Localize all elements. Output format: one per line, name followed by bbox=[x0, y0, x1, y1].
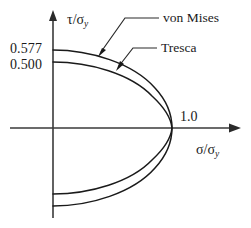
y-tick-label-0577: 0.577 bbox=[10, 42, 42, 56]
yield-criterion-figure: 0.577 0.500 1.0 τ/σy σ/σy von Mises Tres… bbox=[0, 0, 251, 228]
series-label-tresca: Tresca bbox=[161, 41, 197, 55]
tresca-leader-line bbox=[116, 48, 157, 71]
x-axis-label-text: σ/σ bbox=[196, 142, 215, 157]
x-vertex-label-10: 1.0 bbox=[180, 110, 198, 124]
x-axis-label: σ/σy bbox=[196, 143, 219, 157]
plot-canvas bbox=[0, 0, 251, 228]
x-axis bbox=[10, 124, 241, 133]
y-axis bbox=[49, 10, 57, 218]
y-axis-label-subscript: y bbox=[84, 19, 88, 29]
y-axis-label-text: τ/σ bbox=[67, 12, 84, 27]
von-mises-leader-line bbox=[98, 18, 159, 57]
y-tick-label-0500: 0.500 bbox=[10, 58, 42, 72]
y-axis-label: τ/σy bbox=[67, 13, 88, 27]
series-label-von-mises: von Mises bbox=[163, 11, 219, 25]
x-axis-label-subscript: y bbox=[215, 149, 219, 159]
